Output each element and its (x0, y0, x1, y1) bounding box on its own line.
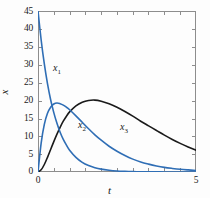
y-axis-label: x (0, 90, 10, 95)
xtick-label-0: 0 (28, 176, 48, 186)
curves-layer (38, 11, 196, 172)
ytick-label-45: 45 (9, 7, 33, 17)
curve-label-x1: x1 (53, 62, 61, 76)
ytick-label-25: 25 (9, 78, 33, 88)
x-axis-label: t (108, 184, 111, 196)
curve-x1 (38, 11, 196, 172)
ytick-label-40: 40 (9, 24, 33, 34)
figure-container: 45 40 35 30 25 20 15 10 5 0 0 5 x t (0, 0, 210, 198)
ytick-label-30: 30 (9, 60, 33, 70)
curve-label-x2-sub: 2 (82, 125, 86, 133)
ytick-label-10: 10 (9, 132, 33, 142)
ytick-label-15: 15 (9, 114, 33, 124)
curve-label-x3: x3 (120, 121, 128, 135)
curve-label-x1-sub: 1 (57, 68, 61, 76)
ytick-label-35: 35 (9, 42, 33, 52)
curve-label-x2: x2 (78, 119, 86, 133)
ytick-label-20: 20 (9, 96, 33, 106)
ytick-label-5: 5 (9, 150, 33, 160)
curve-label-x3-sub: 3 (124, 127, 128, 135)
xtick-label-5: 5 (186, 176, 206, 186)
